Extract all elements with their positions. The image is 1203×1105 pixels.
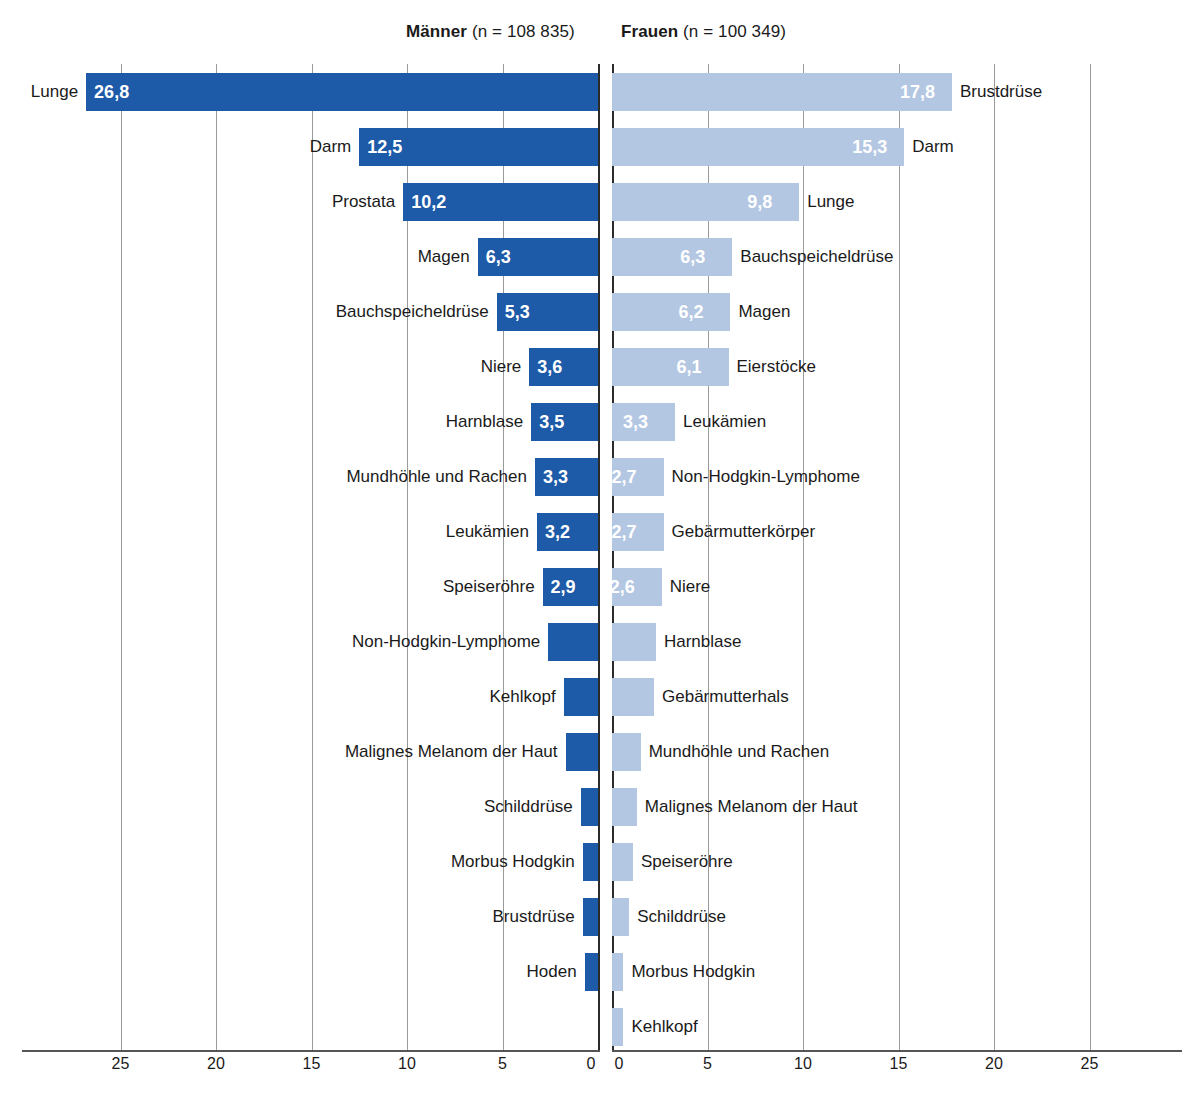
category-label: Harnblase [446, 403, 524, 441]
bar-row: Gebärmutterhals [612, 678, 1174, 716]
tick-left-20: 20 [207, 1055, 225, 1073]
bar-right-mundhöhle-und-rachen[interactable] [612, 733, 641, 771]
bar-row: 3,2Leukämien [29, 513, 600, 551]
diverging-bar-chart: Männer (n = 108 835) Frauen (n = 100 349… [0, 0, 1203, 1105]
category-label: Leukämien [683, 403, 766, 441]
bar-value-label: 3,3 [543, 458, 568, 496]
bar-right-gebärmutterhals[interactable] [612, 678, 654, 716]
bar-left-brustdrüse[interactable] [583, 898, 598, 936]
header-maenner: Männer (n = 108 835) [406, 22, 575, 42]
bar-left-malignes-melanom-der-haut[interactable] [566, 733, 598, 771]
category-label: Non-Hodgkin-Lymphome [672, 458, 860, 496]
bar-value-label: 3,3 [623, 403, 648, 441]
category-label: Darm [912, 128, 954, 166]
bar-row: Brustdrüse [29, 898, 600, 936]
bar-right-speiseröhre[interactable] [612, 843, 633, 881]
header-frauen-title: Frauen [621, 22, 678, 41]
category-label: Kehlkopf [489, 678, 555, 716]
category-label: Morbus Hodgkin [631, 953, 755, 991]
tick-right-0: 0 [615, 1055, 624, 1073]
category-label: Morbus Hodgkin [451, 843, 575, 881]
bar-right-magen[interactable] [612, 293, 730, 331]
bar-row: 2,7Non-Hodgkin-Lymphome [612, 458, 1174, 496]
bar-value-label: 15,3 [852, 128, 887, 166]
bar-row: 2,6Niere [612, 568, 1174, 606]
bar-value-label: 6,3 [486, 238, 511, 276]
category-label: Eierstöcke [737, 348, 816, 386]
bar-right-malignes-melanom-der-haut[interactable] [612, 788, 637, 826]
tick-right-10: 10 [794, 1055, 812, 1073]
header-maenner-title: Männer [406, 22, 467, 41]
bar-row: 10,2Prostata [29, 183, 600, 221]
tick-left-5: 5 [498, 1055, 507, 1073]
axis-center-gap [600, 1050, 612, 1053]
category-label: Gebärmutterhals [662, 678, 789, 716]
category-label: Malignes Melanom der Haut [645, 788, 858, 826]
bar-left-lunge[interactable] [86, 73, 598, 111]
bar-right-morbus-hodgkin[interactable] [612, 953, 623, 991]
bar-row: Speiseröhre [612, 843, 1174, 881]
bar-row: Harnblase [612, 623, 1174, 661]
bar-left-kehlkopf[interactable] [564, 678, 598, 716]
category-label: Lunge [31, 73, 78, 111]
bar-row: 2,9Speiseröhre [29, 568, 600, 606]
plot-area-maenner: 26,8Lunge12,5Darm10,2Prostata6,3Magen5,3… [29, 64, 600, 1050]
bar-left-morbus-hodgkin[interactable] [583, 843, 598, 881]
bar-left-hoden[interactable] [585, 953, 598, 991]
tick-right-25: 25 [1081, 1055, 1099, 1073]
bar-value-label: 6,1 [677, 348, 702, 386]
bar-row: 2,7Gebärmutterkörper [612, 513, 1174, 551]
bar-right-schilddrüse[interactable] [612, 898, 629, 936]
bar-row: Morbus Hodgkin [29, 843, 600, 881]
bar-value-label: 5,3 [505, 293, 530, 331]
bar-row: 15,3Darm [612, 128, 1174, 166]
category-label: Schilddrüse [637, 898, 726, 936]
bar-row: 6,2Magen [612, 293, 1174, 331]
category-label: Prostata [332, 183, 395, 221]
bar-left-non-hodgkin-lymphome[interactable] [548, 623, 598, 661]
bar-value-label: 9,8 [747, 183, 772, 221]
category-label: Gebärmutterkörper [672, 513, 816, 551]
bar-row: Kehlkopf [612, 1008, 1174, 1046]
tick-right-5: 5 [703, 1055, 712, 1073]
bar-right-eierstöcke[interactable] [612, 348, 729, 386]
category-label: Non-Hodgkin-Lymphome [352, 623, 540, 661]
bar-right-kehlkopf[interactable] [612, 1008, 623, 1046]
tick-left-10: 10 [398, 1055, 416, 1073]
bar-value-label: 17,8 [900, 73, 935, 111]
bar-value-label: 6,3 [680, 238, 705, 276]
bar-row: 6,3Magen [29, 238, 600, 276]
category-label: Leukämien [446, 513, 529, 551]
header-frauen-n: (n = 100 349) [683, 22, 786, 41]
category-label: Speiseröhre [443, 568, 535, 606]
bar-value-label: 10,2 [411, 183, 446, 221]
bar-row: Hoden [29, 953, 600, 991]
category-label: Hoden [527, 953, 577, 991]
bar-row: 9,8Lunge [612, 183, 1174, 221]
category-label: Brustdrüse [493, 898, 575, 936]
bar-row: Kehlkopf [29, 678, 600, 716]
bar-value-label: 2,9 [551, 568, 576, 606]
category-label: Schilddrüse [484, 788, 573, 826]
tick-left-15: 15 [303, 1055, 321, 1073]
bar-row: 6,1Eierstöcke [612, 348, 1174, 386]
bar-left-schilddrüse[interactable] [581, 788, 598, 826]
plot-area-frauen: 17,8Brustdrüse15,3Darm9,8Lunge6,3Bauchsp… [612, 64, 1174, 1050]
bar-right-bauchspeicheldrüse[interactable] [612, 238, 732, 276]
bar-value-label: 12,5 [367, 128, 402, 166]
bar-value-label: 3,2 [545, 513, 570, 551]
category-label: Brustdrüse [960, 73, 1042, 111]
bar-row: 3,3Mundhöhle und Rachen [29, 458, 600, 496]
category-label: Bauchspeicheldrüse [740, 238, 893, 276]
bar-value-label: 2,7 [612, 513, 637, 551]
bar-row: Malignes Melanom der Haut [29, 733, 600, 771]
bar-row: 3,5Harnblase [29, 403, 600, 441]
bar-row: Malignes Melanom der Haut [612, 788, 1174, 826]
category-label: Lunge [807, 183, 854, 221]
bar-value-label: 6,2 [678, 293, 703, 331]
category-label: Malignes Melanom der Haut [345, 733, 558, 771]
header-frauen: Frauen (n = 100 349) [621, 22, 786, 42]
bar-right-harnblase[interactable] [612, 623, 656, 661]
category-label: Mundhöhle und Rachen [346, 458, 527, 496]
category-label: Bauchspeicheldrüse [336, 293, 489, 331]
